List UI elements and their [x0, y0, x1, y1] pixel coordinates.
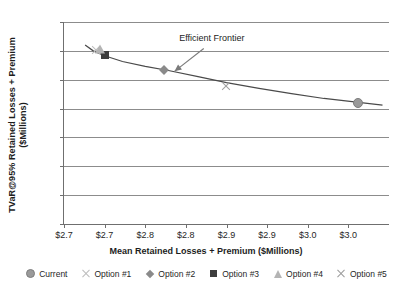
x-axis-tick: [267, 224, 268, 228]
legend-item-option-5[interactable]: Option #5: [336, 268, 387, 279]
x-axis-tick-label: $2.7: [44, 230, 84, 240]
data-point-current: [353, 98, 363, 108]
x-axis-tick-label: $2.9: [207, 230, 247, 240]
data-point-option-4: [95, 44, 105, 53]
legend-marker-icon: [80, 268, 91, 279]
efficient-frontier-chart: TVaR@95% Retained Losses + Premium ($Mil…: [0, 0, 412, 296]
x-axis-tick-label: $3.0: [288, 230, 328, 240]
x-axis-tick: [145, 224, 146, 228]
y-axis-title: TVaR@95% Retained Losses + Premium ($Mil…: [0, 0, 36, 250]
legend-marker-icon: [144, 268, 155, 279]
efficient-frontier-label: Efficient Frontier: [179, 33, 244, 43]
y-axis-title-line2: ($Millions): [18, 37, 29, 213]
x-axis-tick: [227, 224, 228, 228]
legend-marker-icon: [336, 268, 347, 279]
legend-item-option-3[interactable]: Option #3: [208, 268, 259, 279]
x-axis-tick: [64, 224, 65, 228]
x-axis-tick-label: $3.0: [328, 230, 368, 240]
data-point-option-5: [220, 81, 231, 92]
plot-area: $7$6$5$4$3$2$1$- $2.7$2.7$2.8$2.8$2.9$2.…: [63, 22, 388, 224]
x-axis-tick: [186, 224, 187, 228]
x-axis-tick-label: $2.8: [125, 230, 165, 240]
x-axis-tick: [348, 224, 349, 228]
legend-marker-icon: [25, 268, 36, 279]
legend-marker-icon: [272, 268, 283, 279]
x-axis-tick-label: $2.8: [166, 230, 206, 240]
legend-item-current[interactable]: Current: [25, 268, 67, 279]
x-axis-tick-label: $2.7: [85, 230, 125, 240]
chart-legend: CurrentOption #1Option #2Option #3Option…: [0, 268, 412, 279]
y-axis-title-line1: TVaR@95% Retained Losses + Premium: [7, 37, 17, 213]
legend-label: Option #4: [286, 269, 323, 279]
legend-item-option-2[interactable]: Option #2: [144, 268, 195, 279]
x-axis-tick: [308, 224, 309, 228]
legend-item-option-1[interactable]: Option #1: [80, 268, 131, 279]
efficient-frontier-curve: [64, 22, 389, 224]
legend-label: Current: [39, 269, 67, 279]
legend-label: Option #1: [94, 269, 131, 279]
legend-marker-icon: [208, 268, 219, 279]
x-axis-tick: [105, 224, 106, 228]
legend-item-option-4[interactable]: Option #4: [272, 268, 323, 279]
legend-label: Option #2: [158, 269, 195, 279]
legend-label: Option #5: [350, 269, 387, 279]
x-axis-tick-label: $2.9: [247, 230, 287, 240]
efficient-frontier-arrow: [175, 49, 204, 72]
x-axis-title: Mean Retained Losses + Premium ($Million…: [0, 246, 412, 256]
legend-label: Option #3: [222, 269, 259, 279]
